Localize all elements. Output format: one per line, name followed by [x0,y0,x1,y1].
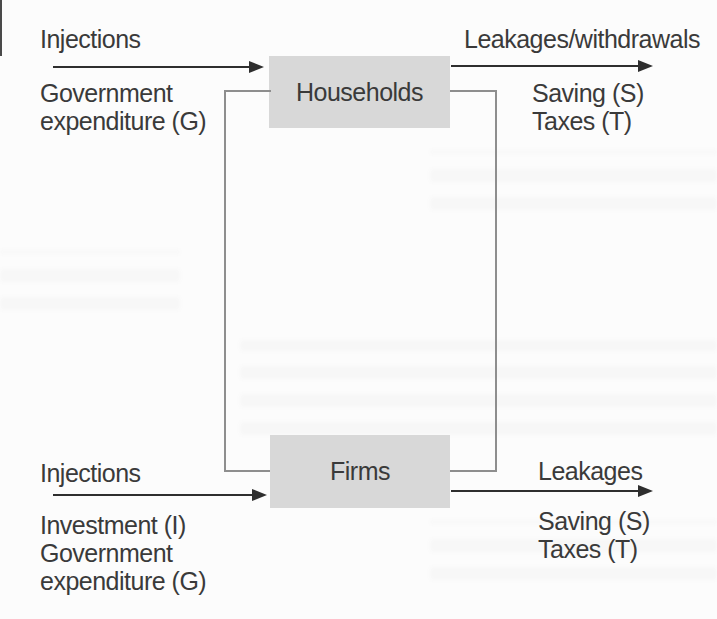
bottom-injections-label: Injections [40,459,141,487]
top-injections-arrow [53,61,264,73]
arrowhead-right-icon [638,60,653,72]
top-injections-detail-line: Government [40,79,206,107]
top-injections-detail: Government expenditure (G) [40,79,206,135]
top-injections-label: Injections [40,25,141,53]
bottom-injections-arrow [53,489,267,501]
households-box: Households [269,56,450,128]
top-leakages-label: Leakages/withdrawals [464,25,700,53]
households-box-label: Households [296,78,423,107]
bottom-leakages-detail-line: Saving (S) [538,507,650,535]
top-leakages-detail-line: Taxes (T) [532,107,644,135]
scan-edge-artifact [0,0,2,56]
firms-box: Firms [270,435,450,508]
arrow-shaft [451,65,638,67]
bottom-injections-detail: Investment (I) Government expenditure (G… [40,511,206,595]
scanned-page: Injections Government expenditure (G) Ho… [0,0,717,619]
bottom-leakages-arrow [451,485,653,497]
bottom-injections-detail-line: Government [40,539,206,567]
bottom-leakages-label: Leakages [538,457,642,485]
left-flow-connector [224,90,271,472]
top-leakages-detail: Saving (S) Taxes (T) [532,79,644,135]
top-leakages-arrow [451,60,653,72]
firms-box-label: Firms [330,457,390,486]
arrow-shaft [451,490,638,492]
right-flow-connector [450,90,497,472]
arrow-shaft [53,66,249,68]
bottom-injections-detail-line: Investment (I) [40,511,206,539]
arrowhead-right-icon [252,489,267,501]
arrow-shaft [53,494,252,496]
arrowhead-right-icon [638,485,653,497]
arrowhead-right-icon [249,61,264,73]
bottom-leakages-detail: Saving (S) Taxes (T) [538,507,650,563]
bottom-injections-detail-line: expenditure (G) [40,567,206,595]
top-injections-detail-line: expenditure (G) [40,107,206,135]
top-leakages-detail-line: Saving (S) [532,79,644,107]
bleedthrough-ghost-text [0,250,180,310]
bottom-leakages-detail-line: Taxes (T) [538,535,650,563]
